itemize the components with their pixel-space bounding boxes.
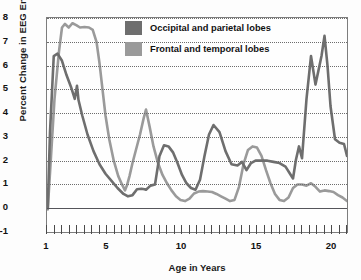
legend-label-occipital-parietal: Occipital and parietal lobes [150, 23, 271, 33]
x-tick-label: 1 [31, 240, 61, 251]
minor-tick [234, 225, 235, 234]
x-axis-minor-ticks [46, 225, 348, 234]
y-tick-label: 5 [0, 82, 8, 93]
gridline [47, 89, 347, 90]
chart-legend: Occipital and parietal lobes Frontal and… [125, 17, 325, 59]
minor-tick [339, 225, 340, 234]
minor-tick [226, 225, 227, 234]
minor-tick [166, 225, 167, 234]
minor-tick [69, 225, 70, 234]
minor-tick [151, 225, 152, 234]
minor-tick [316, 225, 317, 234]
minor-tick [264, 225, 265, 234]
minor-tick [211, 225, 212, 234]
x-tick-label: 5 [91, 240, 121, 251]
minor-tick [204, 225, 205, 234]
minor-tick [196, 225, 197, 234]
minor-tick [61, 225, 62, 234]
minor-tick [301, 225, 302, 234]
legend-swatch-frontal-temporal [125, 42, 142, 56]
minor-tick [114, 225, 115, 234]
gridline [47, 184, 347, 185]
minor-tick [279, 225, 280, 234]
minor-tick [174, 225, 175, 234]
minor-tick [76, 225, 77, 234]
y-axis-title: Percent Change in EEG Energy [17, 0, 28, 130]
minor-tick [121, 225, 122, 234]
y-tick-label: 0 [0, 201, 8, 212]
minor-tick [54, 225, 55, 234]
zero-line [47, 208, 347, 209]
x-tick-label: 15 [241, 240, 271, 251]
y-tick-label: -1 [0, 225, 8, 236]
minor-tick [181, 225, 182, 234]
series-line-occipital-parietal [48, 36, 347, 208]
legend-swatch-occipital-parietal [125, 21, 142, 35]
legend-label-frontal-temporal: Frontal and temporal lobes [150, 44, 269, 54]
x-tick-label: 20 [316, 240, 346, 251]
y-tick-label: 7 [0, 35, 8, 46]
minor-tick [144, 225, 145, 234]
minor-tick [331, 225, 332, 234]
minor-tick [324, 225, 325, 234]
legend-item-occipital-parietal: Occipital and parietal lobes [125, 17, 325, 38]
minor-tick [159, 225, 160, 234]
y-tick-label: 6 [0, 59, 8, 70]
minor-tick [46, 225, 47, 234]
minor-tick [129, 225, 130, 234]
minor-tick [309, 225, 310, 234]
y-tick-label: 1 [0, 177, 8, 188]
legend-item-frontal-temporal: Frontal and temporal lobes [125, 38, 325, 59]
x-axis-title: Age in Years [46, 262, 348, 273]
minor-tick [136, 225, 137, 234]
minor-tick [346, 225, 347, 234]
minor-tick [294, 225, 295, 234]
y-tick-label: 4 [0, 106, 8, 117]
minor-tick [219, 225, 220, 234]
minor-tick [99, 225, 100, 234]
minor-tick [271, 225, 272, 234]
y-tick-label: 8 [0, 11, 8, 22]
gridline [47, 66, 347, 67]
gridline [47, 137, 347, 138]
eeg-energy-line-chart: Percent Change in EEG Energy Age in Year… [0, 0, 361, 280]
minor-tick [189, 225, 190, 234]
minor-tick [249, 225, 250, 234]
minor-tick [241, 225, 242, 234]
y-tick-label: 3 [0, 130, 8, 141]
minor-tick [286, 225, 287, 234]
y-tick-label: 2 [0, 154, 8, 165]
gridline [47, 161, 347, 162]
minor-tick [106, 225, 107, 234]
x-tick-label: 10 [166, 240, 196, 251]
minor-tick [256, 225, 257, 234]
minor-tick [84, 225, 85, 234]
gridline [47, 113, 347, 114]
minor-tick [91, 225, 92, 234]
